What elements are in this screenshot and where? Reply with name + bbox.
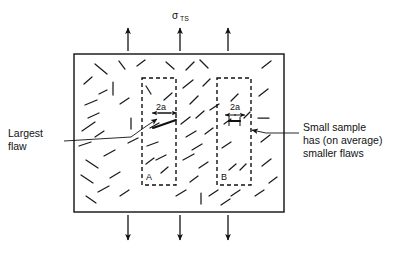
flaw-segment-outside	[231, 190, 240, 196]
flaw-segment-box-a	[156, 155, 166, 160]
flaw-segment-outside	[120, 190, 129, 196]
flaw-segment-outside	[88, 113, 99, 118]
flaw-segment-outside	[200, 60, 208, 68]
flaw-segment-outside	[269, 177, 277, 183]
flaw-segment-box-a	[147, 142, 158, 146]
flaw-segment-box-a	[146, 158, 154, 164]
flaw-segment-outside	[181, 117, 190, 124]
small-sample-label-line1: Small sample	[303, 121, 366, 133]
flaw-segment-outside	[205, 128, 213, 134]
largest-flaw-label-line1: Largest	[8, 127, 43, 139]
flaw-segment-outside	[209, 190, 218, 196]
flaw-segment-outside	[110, 172, 120, 178]
flaw-segment-outside	[203, 79, 210, 86]
dimension-2a-box-a: 2a	[152, 102, 177, 113]
flaw-segment-outside	[81, 175, 93, 183]
sample-box-b	[217, 78, 251, 185]
flaw-segment-box-b	[222, 142, 231, 148]
flaw-segment-outside	[84, 77, 92, 84]
small-sample-label-line3: smaller flaws	[303, 147, 364, 159]
largest-flaw-label-line2: flaw	[8, 140, 27, 152]
flaw-segment-outside	[95, 131, 104, 137]
flaw-segment-outside	[137, 60, 145, 66]
flaw-segment-outside	[128, 138, 138, 143]
flaw-segment-outside	[190, 176, 198, 182]
flaw-segment-outside	[261, 135, 270, 142]
flaw-segment-outside	[120, 98, 129, 104]
flaw-segment-outside	[190, 96, 198, 104]
flaw-segment-box-a	[164, 93, 172, 100]
flaw-segment-outside	[262, 61, 271, 68]
flaw-segment-outside	[99, 90, 107, 94]
dimension-label-a: 2a	[156, 102, 166, 112]
flaw-segment-outside	[166, 62, 174, 69]
flaw-segment-outside	[98, 186, 109, 192]
flaw-segment-outside	[79, 142, 91, 146]
flaw-segment-outside	[186, 62, 194, 70]
flaw-segment-outside	[196, 111, 204, 118]
flaw-segment-outside	[176, 190, 186, 196]
flaw-segment-outside	[199, 162, 208, 168]
figure-canvas: σ TS A B 2a	[0, 0, 411, 262]
sample-box-a-label: A	[146, 172, 152, 182]
flaw-segment-outside	[255, 190, 264, 196]
flaw-segment-box-b	[229, 164, 236, 170]
flaw-segment-outside	[262, 159, 271, 166]
small-sample-label-line2: has (on average)	[303, 134, 382, 146]
fracture-flaw-diagram: σ TS A B 2a	[0, 0, 411, 262]
flaw-segment-outside	[95, 64, 107, 74]
flaw-population	[79, 60, 277, 205]
flaw-segment-outside	[82, 122, 95, 131]
dimension-2a-box-b: 2a	[225, 102, 245, 126]
flaw-segment-box-b	[240, 164, 246, 170]
largest-flaw-leader-line	[64, 119, 157, 141]
flaw-segment-box-a	[146, 86, 151, 94]
sample-box-b-label: B	[221, 172, 227, 182]
flaw-segment-outside	[192, 144, 202, 150]
flaw-segment-outside	[183, 80, 193, 88]
flaw-segment-outside	[86, 160, 98, 168]
small-sample-leader-line	[252, 130, 299, 133]
flaw-segment-outside	[221, 199, 230, 205]
flaw-segment-outside	[186, 131, 196, 137]
flaw-segment-outside	[183, 154, 194, 160]
bottom-load-arrows	[128, 215, 228, 240]
flaw-segment-outside	[86, 196, 96, 203]
flaw-segment-outside	[104, 150, 115, 156]
applied-stress-symbol: σ	[172, 10, 179, 21]
flaw-segment-box-a	[161, 167, 168, 173]
flaw-segment-outside	[259, 89, 268, 96]
flaw-segment-outside	[85, 100, 97, 105]
flaw-segment-box-b	[231, 94, 238, 101]
dimension-label-b: 2a	[230, 102, 240, 112]
top-load-arrows	[128, 28, 228, 51]
flaw-segment-outside	[119, 61, 125, 69]
applied-stress-subscript: TS	[180, 15, 189, 22]
